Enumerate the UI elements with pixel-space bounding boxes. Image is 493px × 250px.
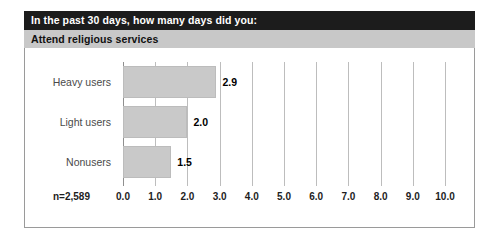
bar-value-label: 2.9 bbox=[222, 76, 237, 88]
bar-row: Light users2.0 bbox=[25, 106, 474, 138]
chart-panel: In the past 30 days, how many days did y… bbox=[24, 11, 475, 228]
question-prefix: In the past 30 days, how many bbox=[31, 14, 188, 26]
x-tick-label: 9.0 bbox=[406, 191, 420, 202]
bar bbox=[123, 146, 171, 178]
bar bbox=[123, 66, 216, 98]
question-emphasis: days bbox=[188, 14, 212, 26]
category-label-wrapper: Light users bbox=[25, 106, 111, 138]
category-label: Nonusers bbox=[66, 156, 111, 168]
x-tick-label: 2.0 bbox=[180, 191, 194, 202]
bar-row: Nonusers1.5 bbox=[25, 146, 474, 178]
bar-value-label: 1.5 bbox=[177, 156, 192, 168]
category-label-wrapper: Heavy users bbox=[25, 66, 111, 98]
plot-area: Heavy users2.9Light users2.0Nonusers1.5 … bbox=[25, 48, 474, 227]
bar-value-label: 2.0 bbox=[193, 116, 208, 128]
x-tick-label: 1.0 bbox=[148, 191, 162, 202]
x-tick-label: 6.0 bbox=[309, 191, 323, 202]
x-tick-label: 5.0 bbox=[277, 191, 291, 202]
x-tick-label: 10.0 bbox=[435, 191, 454, 202]
category-label: Heavy users bbox=[53, 76, 111, 88]
bar bbox=[123, 106, 187, 138]
question-header: In the past 30 days, how many days did y… bbox=[24, 11, 475, 30]
category-label: Light users bbox=[60, 116, 111, 128]
x-tick-label: 4.0 bbox=[245, 191, 259, 202]
x-tick-label: 0.0 bbox=[116, 191, 130, 202]
x-tick-label: 3.0 bbox=[213, 191, 227, 202]
x-tick-label: 7.0 bbox=[341, 191, 355, 202]
category-label-wrapper: Nonusers bbox=[25, 146, 111, 178]
sample-size-label: n=2,589 bbox=[53, 191, 90, 202]
question-suffix: did you: bbox=[212, 14, 257, 26]
bar-row: Heavy users2.9 bbox=[25, 66, 474, 98]
x-tick-label: 8.0 bbox=[374, 191, 388, 202]
topic-header: Attend religious services bbox=[24, 30, 475, 48]
chart-frame: Heavy users2.9Light users2.0Nonusers1.5 … bbox=[24, 48, 475, 228]
